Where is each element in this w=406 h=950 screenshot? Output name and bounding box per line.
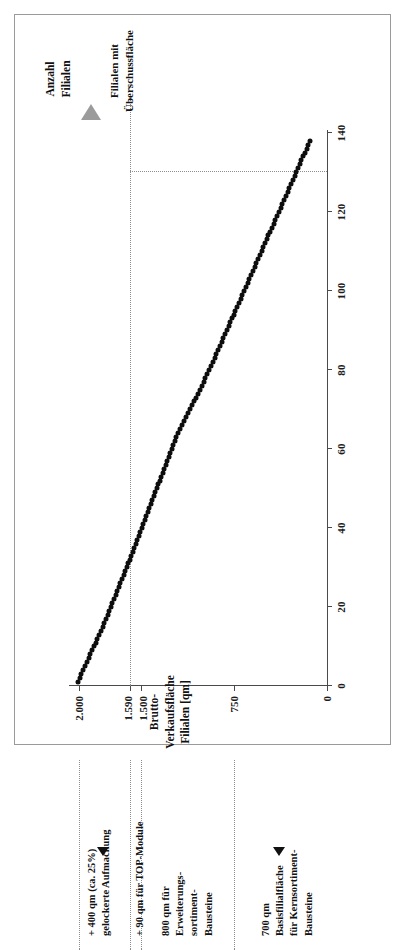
x-tick-label-80: 80 [335, 364, 347, 375]
x-tick-140 [327, 132, 332, 133]
annotation-top-module: + 90 qm für TOP-Module [133, 766, 147, 936]
x-tick-label-140: 140 [335, 124, 347, 141]
y-tick-label-1500: 1.500 [137, 696, 149, 760]
chart-plot-container: Brutto-Verkaufsfläche Filialen [qm] Anza… [29, 29, 406, 760]
band-rail-750 [234, 760, 235, 950]
rotated-chart-canvas: Brutto-Verkaufsfläche Filialen [qm] Anza… [29, 29, 406, 760]
x-tick-label-120: 120 [335, 203, 347, 220]
x-tick-40 [327, 527, 332, 528]
y-tick-1590 [130, 686, 131, 691]
y-tick-label-2000: 2.000 [73, 696, 85, 760]
annotation-mid-band: 800 qm für Erweiterungs- sortiment- Baus… [159, 766, 216, 936]
annotation-low-band: 700 qm Basisfilialfläche für Kernsortime… [259, 766, 316, 936]
threshold-line-horizontal [130, 98, 131, 686]
x-tick-60 [327, 448, 332, 449]
x-tick-label-0: 0 [335, 683, 347, 689]
y-tick-1500 [141, 686, 142, 691]
band-rail-1590 [130, 760, 131, 950]
scanned-page-frame: Brutto-Verkaufsfläche Filialen [qm] Anza… [14, 14, 391, 745]
x-tick-label-60: 60 [335, 443, 347, 454]
x-tick-120 [327, 211, 332, 212]
x-tick-80 [327, 369, 332, 370]
y-tick-label-1590: 1.590 [122, 696, 134, 760]
band-rail-2000 [79, 760, 80, 950]
y-tick-label-750: 750 [228, 696, 240, 760]
y-tick-label-0: 0 [321, 696, 333, 760]
annotation-top-band: + 400 qm (ca. 25%) gelockerte Aufmachung [85, 766, 113, 936]
y-tick-750 [234, 686, 235, 691]
surplus-arrow-icon [81, 104, 101, 120]
data-point [308, 138, 313, 143]
x-tick-100 [327, 290, 332, 291]
x-tick-20 [327, 606, 332, 607]
y-tick-2000 [79, 686, 80, 691]
x-axis-line [327, 130, 328, 686]
x-tick-label-20: 20 [335, 601, 347, 612]
x-axis-title: Anzahl Filialen [43, 34, 74, 124]
surplus-annotation-label: Filialen mit Überschussfläche [107, 6, 137, 136]
y-axis-title: Brutto-Verkaufsfläche Filialen [qm] [147, 662, 194, 762]
x-tick-label-40: 40 [335, 522, 347, 533]
y-axis-line [69, 685, 327, 686]
y-tick-0 [327, 686, 328, 691]
x-tick-label-100: 100 [335, 282, 347, 299]
